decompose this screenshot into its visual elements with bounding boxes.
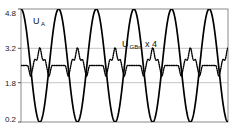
- y-tick-label: 4.8: [5, 9, 17, 18]
- annotation-ua-sub: A: [41, 21, 45, 27]
- y-tick-labels: 4.83.21.80.2: [5, 9, 17, 124]
- y-tick-label: 1.8: [5, 79, 17, 88]
- plot-svg: 4.83.21.80.2 U A U GBn x 4: [0, 0, 238, 130]
- annotation-ua-main: U: [33, 16, 40, 26]
- annotation-ugbn-suffix: x 4: [145, 39, 157, 49]
- waveform-chart: 4.83.21.80.2 U A U GBn x 4: [0, 0, 238, 130]
- y-tick-label: 3.2: [5, 44, 17, 53]
- y-tick-label: 0.2: [5, 115, 17, 124]
- annotation-ugbn-main: U: [122, 39, 129, 49]
- annotation-ugbn-sub: GBn: [130, 44, 142, 50]
